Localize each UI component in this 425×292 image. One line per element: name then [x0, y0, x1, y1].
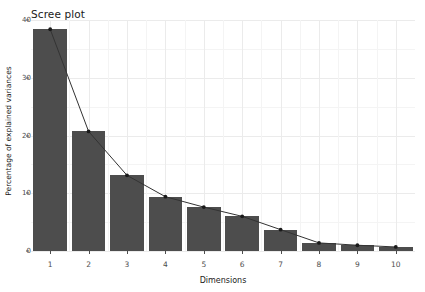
scree-point: [48, 27, 52, 31]
x-tick-mark: [242, 251, 243, 254]
scree-point: [279, 228, 283, 232]
x-tick-label: 6: [227, 260, 257, 269]
x-tick-mark: [127, 251, 128, 254]
x-tick-mark: [281, 251, 282, 254]
x-tick-label: 4: [150, 260, 180, 269]
scree-line-overlay: [31, 20, 415, 251]
scree-points: [48, 27, 397, 249]
scree-point: [87, 130, 91, 134]
scree-point: [356, 243, 360, 247]
y-tick-mark: [26, 77, 29, 78]
x-tick-mark: [165, 251, 166, 254]
y-tick-mark: [26, 20, 29, 21]
scree-line: [50, 29, 396, 247]
x-tick-label: 10: [381, 260, 411, 269]
scree-point: [125, 173, 129, 177]
x-tick-label: 2: [74, 260, 104, 269]
x-axis: 12345678910: [31, 251, 415, 275]
scree-point: [240, 214, 244, 218]
x-tick-mark: [204, 251, 205, 254]
y-tick-mark: [26, 251, 29, 252]
chart-title: Scree plot: [31, 8, 85, 20]
x-tick-mark: [319, 251, 320, 254]
scree-point: [394, 245, 398, 249]
x-tick-label: 3: [112, 260, 142, 269]
scree-plot-figure: Scree plot Percentage of explained varia…: [0, 0, 425, 292]
x-tick-mark: [357, 251, 358, 254]
x-axis-title: Dimensions: [33, 276, 413, 285]
scree-point: [164, 195, 168, 199]
x-tick-mark: [89, 251, 90, 254]
x-tick-label: 5: [189, 260, 219, 269]
scree-point: [317, 241, 321, 245]
y-tick-mark: [26, 193, 29, 194]
y-axis: 010203040: [0, 20, 31, 251]
plot-panel: [31, 20, 415, 251]
x-tick-label: 1: [35, 260, 65, 269]
x-tick-label: 9: [342, 260, 372, 269]
x-tick-label: 8: [304, 260, 334, 269]
x-tick-mark: [396, 251, 397, 254]
y-tick-mark: [26, 135, 29, 136]
scree-point: [202, 205, 206, 209]
x-tick-label: 7: [266, 260, 296, 269]
x-tick-mark: [50, 251, 51, 254]
